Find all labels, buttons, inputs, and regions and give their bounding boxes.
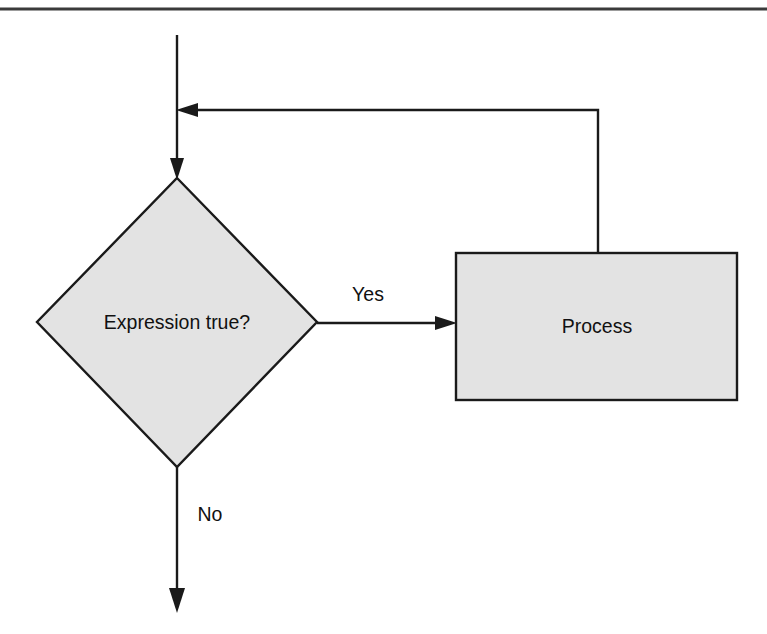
no-branch-arrowhead-icon <box>169 588 185 613</box>
loop-back-line <box>187 110 598 253</box>
process-label: Process <box>562 315 633 337</box>
loop-back-arrowhead-icon <box>176 103 198 117</box>
edge-no-branch <box>169 467 185 613</box>
flowchart-canvas: Process Expression true? Yes No <box>0 0 767 634</box>
edge-entry <box>170 35 184 180</box>
flowchart-figure: Process Expression true? Yes No <box>0 0 767 634</box>
no-label: No <box>198 503 223 525</box>
edge-yes-branch <box>317 316 457 330</box>
decision-label: Expression true? <box>104 311 250 333</box>
yes-branch-arrowhead-icon <box>435 316 457 330</box>
yes-label: Yes <box>352 283 384 305</box>
node-process[interactable]: Process <box>456 253 737 400</box>
node-decision[interactable]: Expression true? <box>37 178 317 467</box>
edge-loop-back <box>176 103 598 253</box>
